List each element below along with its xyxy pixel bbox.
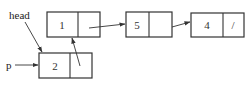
head-arrow (25, 22, 42, 52)
node-5-value: 5 (134, 19, 140, 31)
node-2: 2 (39, 53, 92, 78)
node-4: 4 / (191, 13, 244, 37)
p-label: p (6, 59, 12, 71)
node-2-value: 2 (52, 60, 58, 72)
node-5-next-arrow (172, 22, 190, 27)
linked-list-diagram: 1 5 4 / 2 head p (0, 0, 252, 86)
node-4-value: 4 (204, 19, 210, 31)
head-label: head (9, 9, 30, 21)
node-1-value: 1 (59, 19, 65, 31)
node-1: 1 (47, 12, 100, 37)
node-5: 5 (126, 12, 172, 37)
